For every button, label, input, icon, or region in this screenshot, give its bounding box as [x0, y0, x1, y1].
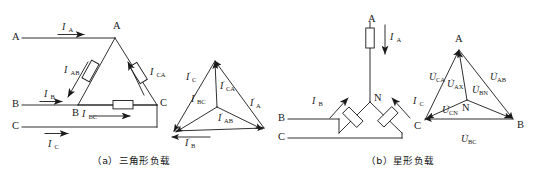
terminal-label-b: B: [12, 98, 19, 109]
label-phasor-uan: . U AX: [447, 75, 464, 90]
svg-text:.: .: [253, 94, 255, 100]
svg-text:I: I: [219, 80, 224, 91]
phasor-ibc: [176, 107, 217, 132]
star-phasor-vertex-c: C: [414, 120, 421, 131]
phasor-iab: [174, 128, 264, 131]
load-box-ca: [130, 62, 148, 83]
svg-text:CN: CN: [449, 109, 458, 116]
svg-text:AX: AX: [454, 83, 464, 90]
load-box-a-star: [366, 28, 374, 48]
svg-text:A: A: [256, 102, 261, 109]
label-phase-current-ab: I AB: [63, 64, 80, 76]
caption-a: （a）三角形负载: [92, 153, 170, 167]
caption-b: （b）星形负载: [366, 153, 434, 167]
svg-text:B: B: [191, 142, 196, 149]
node-label-b: B: [72, 107, 79, 118]
load-box-b-star: [343, 107, 363, 127]
phasor-ica: [215, 62, 217, 107]
star-label-current-a: I A: [389, 31, 402, 43]
star-phasor-vertex-a: A: [455, 33, 463, 44]
three-phase-load-figure: A B C A B C I A I B I C I AB: [0, 0, 536, 181]
svg-text:BN: BN: [479, 89, 488, 96]
svg-text:CA: CA: [226, 85, 235, 92]
label-phasor-uab: . U AB: [490, 68, 507, 83]
svg-text:I: I: [217, 112, 222, 123]
star-label-current-b: I B: [311, 95, 324, 107]
svg-text:AB: AB: [497, 76, 507, 83]
label-phasor-uca: . U CA: [429, 68, 445, 83]
delta-load-elements: [82, 60, 147, 109]
star-terminal-label-c: C: [278, 131, 285, 142]
svg-text:B: B: [51, 93, 56, 100]
svg-text:I: I: [311, 95, 316, 106]
load-box-bc: [113, 101, 133, 109]
load-box-c-star: [378, 107, 398, 127]
svg-text:I: I: [184, 137, 189, 148]
svg-text:C: C: [55, 143, 59, 150]
star-terminal-label-a: A: [368, 13, 376, 24]
label-phasor-ica: . I CA: [219, 77, 235, 92]
svg-text:I: I: [412, 95, 417, 106]
label-line-current-c: I C: [47, 138, 59, 150]
svg-text:A: A: [69, 26, 74, 33]
star-phasor-vertex-b: B: [517, 119, 524, 130]
star-neutral-label: N: [374, 92, 382, 103]
node-label-c: C: [160, 97, 167, 108]
svg-text:I: I: [81, 108, 86, 119]
svg-text:.: .: [223, 77, 225, 83]
label-phasor-ubc: . U BC: [461, 130, 477, 145]
svg-text:CA: CA: [157, 71, 166, 78]
label-phase-current-bc: I BC: [81, 108, 97, 120]
svg-text:I: I: [249, 97, 254, 108]
svg-text:B: B: [319, 100, 324, 107]
label-line-current-a: I A: [61, 21, 74, 33]
svg-text:I: I: [185, 71, 190, 82]
star-load-elements: [343, 28, 398, 127]
label-phasor-ic: . I C: [185, 68, 196, 83]
star-phasor-vertex-n: N: [462, 102, 470, 113]
svg-text:CA: CA: [436, 76, 445, 83]
wire-leg-ab: [78, 38, 115, 105]
label-phase-current-ca: I CA: [149, 66, 166, 78]
svg-text:C: C: [420, 100, 424, 107]
svg-text:.: .: [189, 68, 191, 74]
svg-text:I: I: [43, 88, 48, 99]
svg-text:AB: AB: [224, 117, 234, 124]
label-phasor-ucn: . U CN: [442, 101, 458, 116]
svg-text:A: A: [397, 36, 402, 43]
svg-text:BC: BC: [197, 98, 206, 105]
terminal-label-c: C: [12, 120, 19, 131]
star-label-current-c: I C: [412, 95, 424, 107]
terminal-label-a: A: [12, 31, 20, 42]
svg-text:I: I: [61, 21, 66, 32]
svg-text:I: I: [63, 64, 68, 75]
label-phasor-ia: . I A: [249, 94, 261, 109]
svg-text:C: C: [192, 76, 196, 83]
svg-text:BC: BC: [89, 113, 98, 120]
label-line-current-b: I B: [43, 88, 56, 100]
label-phasor-ibc: . I BC: [190, 90, 206, 105]
svg-text:I: I: [47, 138, 52, 149]
phasor-ubn: [467, 100, 511, 118]
svg-text:AB: AB: [71, 69, 81, 76]
svg-text:I: I: [190, 93, 195, 104]
label-phasor-iab: . I AB: [217, 109, 234, 124]
svg-text:BC: BC: [468, 138, 477, 145]
figure-canvas: A B C A B C I A I B I C I AB: [0, 0, 536, 181]
svg-text:I: I: [389, 31, 394, 42]
node-label-a: A: [113, 20, 121, 31]
svg-text:I: I: [149, 66, 154, 77]
star-terminal-label-b: B: [278, 112, 285, 123]
